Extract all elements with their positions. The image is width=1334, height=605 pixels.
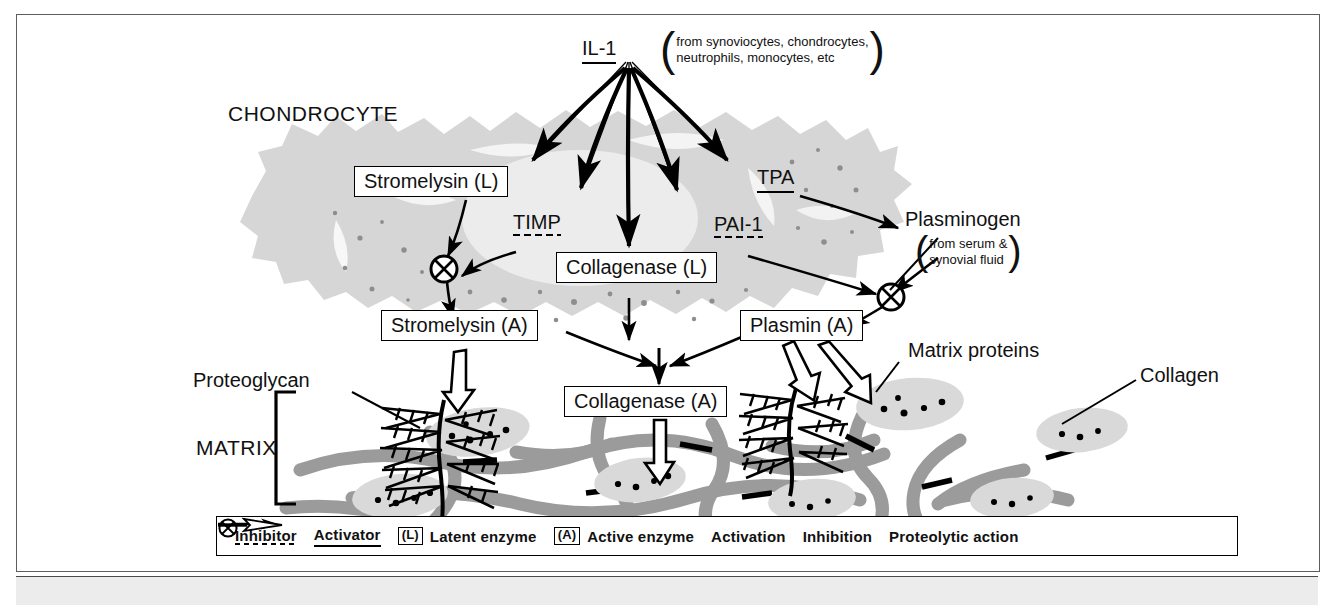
il1-source-annotation: ( from synoviocytes, chondrocytes, neutr… [660, 32, 885, 68]
legend-active-enzyme: (A) Active enzyme [554, 527, 694, 545]
legend: Inhibitor Activator (L) Latent enzyme (A… [216, 516, 1238, 556]
plasminogen-source-line1: from serum & [929, 236, 1007, 251]
legend-latent-text: Latent enzyme [430, 528, 537, 545]
timp-label: TIMP [513, 211, 561, 236]
legend-latent-enzyme: (L) Latent enzyme [398, 527, 537, 545]
label-collagen: Collagen [1140, 365, 1219, 385]
legend-active-text: Active enzyme [587, 528, 694, 545]
pai1-label: PAI-1 [714, 213, 763, 238]
matrix-label: MATRIX [196, 437, 277, 458]
legend-activator: Activator [314, 526, 381, 547]
plasminogen-source-annotation: ( from serum & synovial fluid ) [915, 236, 1022, 267]
tpa-label: TPA [757, 166, 794, 193]
label-matrix-proteins: Matrix proteins [908, 340, 1039, 360]
plasminogen-source-line2: synovial fluid [929, 252, 1003, 267]
legend-latent-tag: (L) [398, 527, 423, 545]
enzyme-box-plasmin-active[interactable]: Plasmin (A) [740, 310, 863, 341]
legend-activator-label: Activator [314, 526, 381, 547]
caption-band [16, 576, 1318, 605]
chondrocyte-label: CHONDROCYTE [228, 103, 398, 124]
legend-activation-text: Activation [711, 528, 786, 545]
node-plasminogen: Plasminogen [905, 209, 1021, 229]
il1-source-line2: neutrophils, monocytes, etc [676, 50, 834, 65]
chondrocyte-cell [240, 110, 912, 322]
legend-inhibition: Inhibition [803, 528, 872, 545]
legend-proteolytic-text: Proteolytic action [889, 528, 1018, 545]
enzyme-box-collagenase-active[interactable]: Collagenase (A) [564, 386, 727, 417]
node-pai1: PAI-1 [714, 214, 763, 234]
label-proteoglycan: Proteoglycan [193, 370, 310, 390]
node-tpa: TPA [757, 167, 794, 187]
il1-label: IL-1 [582, 37, 616, 64]
enzyme-box-collagenase-latent[interactable]: Collagenase (L) [556, 252, 717, 283]
legend-active-tag: (A) [554, 527, 581, 545]
legend-inhibition-text: Inhibition [803, 528, 872, 545]
legend-activation: Activation [711, 528, 786, 545]
legend-proteolytic: Proteolytic action [889, 528, 1018, 545]
proteolytic-arrow-icon [217, 517, 283, 533]
enzyme-box-stromelysin-active[interactable]: Stromelysin (A) [381, 310, 538, 341]
il1-source-line1: from synoviocytes, chondrocytes, [676, 34, 868, 49]
node-timp: TIMP [513, 212, 561, 232]
enzyme-box-stromelysin-latent[interactable]: Stromelysin (L) [354, 166, 508, 197]
matrix-bracket [276, 392, 296, 504]
node-il1: IL-1 [582, 38, 616, 58]
